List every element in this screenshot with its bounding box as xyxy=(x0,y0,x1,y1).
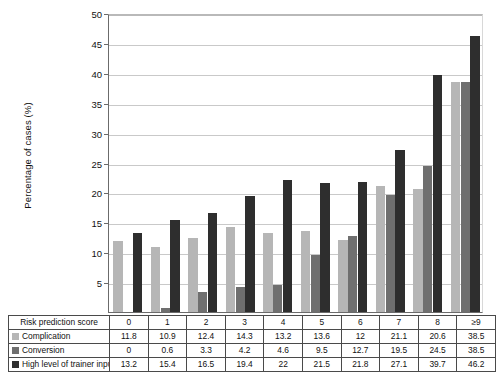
table-cell-0-6: 12 xyxy=(341,330,380,344)
bar-high-level-of-trainer-input-4 xyxy=(283,180,292,312)
bar-complication-7 xyxy=(376,186,385,312)
bar-high-level-of-trainer-input-0 xyxy=(133,233,142,312)
y-tick-label-50: 50 xyxy=(78,9,102,20)
bar-complication-2 xyxy=(188,238,197,312)
bar-conversion-6 xyxy=(348,236,357,312)
y-tick-label-5: 5 xyxy=(78,278,102,289)
table-col-header-4: 4 xyxy=(264,316,303,330)
bar-conversion-1 xyxy=(161,308,170,312)
table-col-header-8: 8 xyxy=(418,316,457,330)
table-col-header-6: 6 xyxy=(341,316,380,330)
bar-complication-≥9 xyxy=(451,82,460,312)
table-cell-1-1: 0.6 xyxy=(148,344,187,358)
table-cell-2-4: 22 xyxy=(264,358,303,372)
bar-group-7 xyxy=(372,15,410,312)
table-cell-1-3: 4.2 xyxy=(225,344,264,358)
legend-swatch-icon-2 xyxy=(12,361,19,368)
y-tick-label-35: 35 xyxy=(78,98,102,109)
bar-conversion-7 xyxy=(386,195,395,312)
table-cell-1-7: 19.5 xyxy=(380,344,419,358)
table-cell-2-2: 16.5 xyxy=(187,358,226,372)
table-col-header-9: ≥9 xyxy=(457,316,496,330)
table-col-header-5: 5 xyxy=(302,316,341,330)
bar-high-level-of-trainer-input-3 xyxy=(245,196,254,312)
bar-series-layer xyxy=(109,15,482,312)
bar-conversion-4 xyxy=(273,285,282,313)
table-cell-2-5: 21.5 xyxy=(302,358,341,372)
table-cell-2-0: 13.2 xyxy=(110,358,149,372)
legend-swatch-icon-0 xyxy=(12,333,19,340)
table-cell-0-5: 13.6 xyxy=(302,330,341,344)
table-col-header-7: 7 xyxy=(380,316,419,330)
y-tick-label-45: 45 xyxy=(78,38,102,49)
table-cell-2-3: 19.4 xyxy=(225,358,264,372)
table-cell-0-8: 20.6 xyxy=(418,330,457,344)
plot-area xyxy=(108,14,483,313)
table-cell-1-4: 4.6 xyxy=(264,344,303,358)
bar-conversion-≥9 xyxy=(461,82,470,312)
table-cell-2-8: 39.7 xyxy=(418,358,457,372)
data-table: Risk prediction score 012345678≥9 Compli… xyxy=(8,315,496,372)
bar-high-level-of-trainer-input-≥9 xyxy=(470,36,479,312)
bar-group-≥9 xyxy=(447,15,485,312)
table-header-label: Risk prediction score xyxy=(9,316,110,330)
table-cell-0-9: 38.5 xyxy=(457,330,496,344)
y-tick-label-30: 30 xyxy=(78,128,102,139)
table-row-header: Risk prediction score 012345678≥9 xyxy=(9,316,496,330)
table-cell-2-9: 46.2 xyxy=(457,358,496,372)
bar-conversion-8 xyxy=(423,166,432,313)
y-tick-label-40: 40 xyxy=(78,68,102,79)
y-tick-label-20: 20 xyxy=(78,188,102,199)
bar-conversion-2 xyxy=(198,292,207,312)
table-col-header-0: 0 xyxy=(110,316,149,330)
legend-label-0: Complication xyxy=(22,331,70,341)
table-cell-0-4: 13.2 xyxy=(264,330,303,344)
bar-conversion-3 xyxy=(236,287,245,312)
table-cell-2-7: 27.1 xyxy=(380,358,419,372)
bar-high-level-of-trainer-input-1 xyxy=(170,220,179,312)
table-row-label-0: Complication xyxy=(9,330,110,344)
bar-group-0 xyxy=(109,15,147,312)
table-cell-1-0: 0 xyxy=(110,344,149,358)
table-row: Conversion00.63.34.24.69.512.719.524.538… xyxy=(9,344,496,358)
bar-group-6 xyxy=(334,15,372,312)
bar-complication-4 xyxy=(263,233,272,312)
table-cell-1-8: 24.5 xyxy=(418,344,457,358)
bar-high-level-of-trainer-input-2 xyxy=(208,213,217,312)
bar-group-8 xyxy=(409,15,447,312)
bar-complication-8 xyxy=(413,189,422,312)
table-cell-1-5: 9.5 xyxy=(302,344,341,358)
table-col-header-1: 1 xyxy=(148,316,187,330)
table-col-header-2: 2 xyxy=(187,316,226,330)
table-cell-2-6: 21.8 xyxy=(341,358,380,372)
bar-group-5 xyxy=(297,15,335,312)
y-tick-label-10: 10 xyxy=(78,248,102,259)
table-cell-0-0: 11.8 xyxy=(110,330,149,344)
bar-complication-5 xyxy=(301,231,310,312)
table-cell-1-2: 3.3 xyxy=(187,344,226,358)
legend-label-1: Conversion xyxy=(22,345,64,355)
table-body: Risk prediction score 012345678≥9 Compli… xyxy=(9,316,496,372)
bar-complication-6 xyxy=(338,240,347,312)
bar-group-1 xyxy=(147,15,185,312)
table-cell-2-1: 15.4 xyxy=(148,358,187,372)
table-cell-0-1: 10.9 xyxy=(148,330,187,344)
y-tick-label-25: 25 xyxy=(78,158,102,169)
table-cell-0-2: 12.4 xyxy=(187,330,226,344)
bar-high-level-of-trainer-input-5 xyxy=(320,183,329,312)
bar-conversion-5 xyxy=(311,255,320,312)
table-cell-1-6: 12.7 xyxy=(341,344,380,358)
legend-label-2: High level of trainer input xyxy=(22,359,110,369)
bar-high-level-of-trainer-input-8 xyxy=(433,75,442,312)
table-row-label-2: High level of trainer input xyxy=(9,358,110,372)
table-row-label-1: Conversion xyxy=(9,344,110,358)
bar-complication-1 xyxy=(151,247,160,312)
bar-group-2 xyxy=(184,15,222,312)
bar-complication-0 xyxy=(113,241,122,312)
bar-complication-3 xyxy=(226,227,235,313)
table-cell-0-3: 14.3 xyxy=(225,330,264,344)
bar-high-level-of-trainer-input-7 xyxy=(395,150,404,312)
bar-high-level-of-trainer-input-6 xyxy=(358,182,367,312)
y-axis-title: Percentage of cases (%) xyxy=(22,66,33,246)
